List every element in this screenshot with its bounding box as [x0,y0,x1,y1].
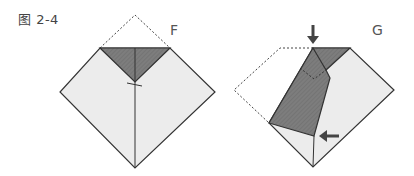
panel-f [60,15,215,168]
arrow-down-icon [307,25,319,44]
dashed-original-corner-f [100,15,170,48]
diagram-canvas [0,0,414,176]
panel-g [234,25,394,167]
